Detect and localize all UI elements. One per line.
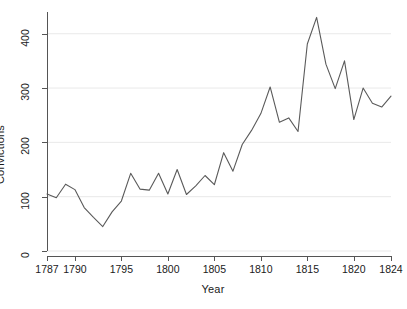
x-tick-label: 1790 xyxy=(63,263,86,275)
x-tick-mark xyxy=(307,256,308,261)
convictions-line xyxy=(47,17,391,226)
x-tick-mark xyxy=(354,256,355,261)
x-tick-mark xyxy=(121,256,122,261)
y-tick-label-text: 300 xyxy=(19,83,31,101)
y-tick-mark xyxy=(42,142,47,143)
x-tick-mark xyxy=(75,256,76,261)
x-tick-label: 1820 xyxy=(342,263,365,275)
x-tick-mark xyxy=(391,256,392,261)
y-tick-label-text: 400 xyxy=(19,29,31,47)
line-chart: Convictions 0100200300400 17871790179518… xyxy=(0,0,407,309)
x-tick-label: 1815 xyxy=(296,263,319,275)
y-tick-label: 100 xyxy=(10,191,40,203)
plot-area xyxy=(47,12,391,251)
x-tick-mark xyxy=(214,256,215,261)
x-tick-mark xyxy=(261,256,262,261)
y-tick-label: 300 xyxy=(10,82,40,94)
y-tick-label-text: 100 xyxy=(19,192,31,210)
y-tick-mark xyxy=(42,34,47,35)
x-tick-label: 1787 xyxy=(35,263,58,275)
x-tick-label: 1795 xyxy=(110,263,133,275)
y-tick-label: 200 xyxy=(10,136,40,148)
x-tick-label: 1810 xyxy=(249,263,272,275)
x-tick-label: 1805 xyxy=(203,263,226,275)
x-tick-label: 1800 xyxy=(156,263,179,275)
x-tick-mark xyxy=(47,256,48,261)
y-axis-title-label: Convictions xyxy=(0,125,6,184)
x-axis-line xyxy=(47,256,391,257)
y-axis-line xyxy=(47,12,48,251)
y-tick-mark xyxy=(42,88,47,89)
y-tick-mark xyxy=(42,251,47,252)
y-tick-mark xyxy=(42,197,47,198)
y-tick-label: 0 xyxy=(10,245,40,257)
x-tick-label: 1824 xyxy=(379,263,402,275)
x-axis-title: Year xyxy=(47,283,379,295)
y-tick-label-text: 200 xyxy=(19,138,31,156)
x-tick-mark xyxy=(168,256,169,261)
y-tick-label-text: 0 xyxy=(19,252,31,258)
series-layer xyxy=(47,12,391,251)
y-tick-label: 400 xyxy=(10,28,40,40)
x-axis-title-label: Year xyxy=(201,283,224,295)
